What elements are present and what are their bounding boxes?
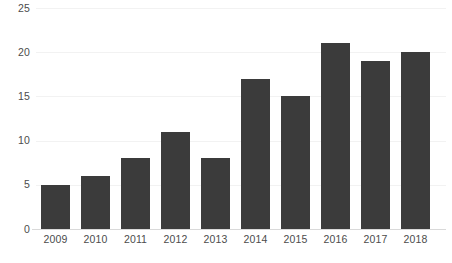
y-tick-label: 25: [6, 3, 30, 14]
x-tick-label: 2012: [156, 233, 196, 247]
bar[interactable]: [241, 79, 270, 229]
bar[interactable]: [361, 61, 390, 229]
bar-chart: 0510152025 20092010201120122013201420152…: [0, 0, 452, 263]
x-tick-label: 2011: [116, 233, 156, 247]
bar-series: [36, 0, 446, 229]
x-tick-label: 2009: [36, 233, 76, 247]
x-tick-label: 2014: [236, 233, 276, 247]
x-tick-label: 2018: [396, 233, 436, 247]
x-axis-line: [32, 229, 446, 230]
bar[interactable]: [81, 176, 110, 229]
x-tick-label: 2010: [76, 233, 116, 247]
y-tick-label: 10: [6, 135, 30, 146]
bar[interactable]: [401, 52, 430, 229]
x-tick-label: 2017: [356, 233, 396, 247]
bar[interactable]: [41, 185, 70, 229]
bar[interactable]: [161, 132, 190, 229]
x-tick-label: 2015: [276, 233, 316, 247]
y-tick-label: 5: [6, 179, 30, 190]
x-axis-tick-labels: 2009201020112012201320142015201620172018: [36, 233, 446, 253]
bar[interactable]: [121, 158, 150, 229]
y-axis-tick-labels: 0510152025: [0, 0, 30, 240]
y-tick-label: 20: [6, 47, 30, 58]
bar[interactable]: [281, 96, 310, 229]
bar[interactable]: [321, 43, 350, 229]
plot-area: [36, 0, 446, 229]
x-tick-label: 2013: [196, 233, 236, 247]
x-tick-label: 2016: [316, 233, 356, 247]
y-tick-label: 15: [6, 91, 30, 102]
bar[interactable]: [201, 158, 230, 229]
y-tick-label: 0: [6, 224, 30, 235]
